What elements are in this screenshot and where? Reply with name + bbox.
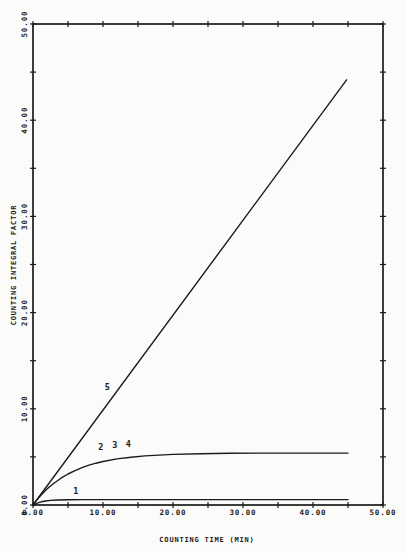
y-tick-label: 10.00 <box>20 395 29 422</box>
x-tick-label: 30.00 <box>229 508 256 517</box>
scanned-chart-page: 0.0010.0020.0030.0040.0050.000.0010.0020… <box>0 0 407 553</box>
y-tick-label: 0.00 <box>20 494 29 516</box>
curve-label-3: 3 <box>112 440 117 450</box>
series-2-3-4 <box>33 453 348 505</box>
plot-area: 0.0010.0020.0030.0040.0050.000.0010.0020… <box>20 10 397 516</box>
x-tick-label: 40.00 <box>299 508 326 517</box>
curve-label-1: 1 <box>73 486 78 496</box>
y-tick-label: 50.00 <box>20 10 29 37</box>
curve-label-5: 5 <box>105 382 110 392</box>
y-tick-label: 20.00 <box>20 299 29 326</box>
y-tick-label: 30.00 <box>20 203 29 230</box>
x-axis-title: COUNTING TIME (MIN) <box>159 536 254 544</box>
y-axis-title: COUNTING INTEGRAL FACTOR <box>10 205 18 325</box>
series-5 <box>33 80 347 505</box>
x-tick-label: 10.00 <box>89 508 116 517</box>
x-tick-label: 50.00 <box>369 508 396 517</box>
x-tick-label: 20.00 <box>159 508 186 517</box>
chart-svg: 0.0010.0020.0030.0040.0050.000.0010.0020… <box>0 0 407 553</box>
curve-label-2: 2 <box>98 442 103 452</box>
curve-label-4: 4 <box>126 439 131 449</box>
y-tick-label: 40.00 <box>20 107 29 134</box>
